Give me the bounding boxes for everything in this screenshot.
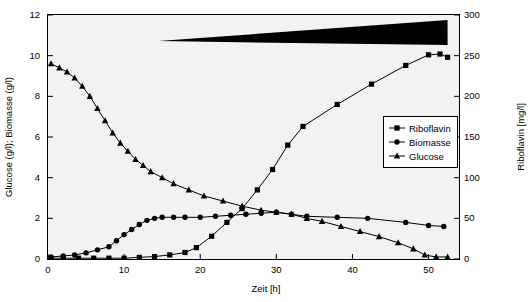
data-point — [159, 215, 164, 220]
data-point — [148, 168, 154, 174]
series-biomasse — [48, 210, 446, 259]
data-point — [94, 105, 100, 111]
data-point — [106, 256, 111, 259]
y-tick-left-4: 4 — [10, 172, 40, 183]
data-point — [198, 215, 203, 220]
legend-item-biomasse[interactable]: Biomasse — [389, 135, 451, 149]
y-tick-right-0: 0 — [464, 253, 498, 264]
data-point — [48, 60, 54, 66]
legend-marker-square-icon — [389, 122, 405, 134]
data-point — [335, 102, 340, 107]
data-point — [152, 216, 157, 221]
x-axis-title: Zeit [h] — [0, 283, 532, 294]
data-point — [140, 162, 146, 168]
data-point — [426, 52, 431, 57]
data-point — [71, 75, 77, 81]
data-point — [182, 215, 187, 220]
data-point — [270, 167, 275, 172]
data-point — [255, 187, 260, 192]
x-tick-40: 40 — [337, 264, 367, 275]
data-point — [403, 220, 408, 225]
data-point — [106, 244, 111, 249]
data-point — [209, 234, 214, 239]
data-point — [213, 214, 218, 219]
legend-marker-triangle-icon — [389, 150, 405, 162]
y-axis-right-title: Riboflavin [mg/l] — [515, 14, 531, 260]
data-point — [48, 254, 53, 259]
legend-marker-circle-icon — [389, 136, 405, 148]
data-point — [445, 55, 450, 60]
x-tick-0: 0 — [33, 264, 63, 275]
data-point — [422, 251, 428, 257]
y-tick-right-250: 250 — [464, 50, 498, 61]
data-point — [437, 51, 442, 56]
data-point — [194, 245, 199, 250]
data-point — [444, 253, 450, 259]
legend-label: Glucose — [409, 150, 444, 163]
data-point — [171, 215, 176, 220]
y-tick-right-300: 300 — [464, 9, 498, 20]
data-point — [426, 223, 431, 228]
data-point — [109, 129, 115, 135]
feed-wedge-annotation — [158, 20, 447, 45]
series-line — [51, 212, 444, 257]
data-point — [243, 212, 248, 217]
data-point — [91, 256, 96, 259]
data-point — [152, 254, 157, 259]
x-tick-20: 20 — [185, 264, 215, 275]
y-tick-left-8: 8 — [10, 90, 40, 101]
data-point — [167, 252, 172, 257]
data-point — [64, 68, 70, 74]
chart-legend: RiboflavinBiomasseGlucose — [383, 116, 458, 168]
y-tick-right-200: 200 — [464, 90, 498, 101]
data-point — [335, 215, 340, 220]
data-point — [285, 143, 290, 148]
data-point — [441, 224, 446, 229]
y-tick-left-12: 12 — [10, 9, 40, 20]
chart-figure: Glucose (g/l); Biomasse (g/l) Riboflavin… — [0, 0, 532, 302]
data-point — [137, 255, 142, 259]
legend-label: Riboflavin — [409, 122, 451, 135]
data-point — [182, 250, 187, 255]
y-tick-left-0: 0 — [10, 253, 40, 264]
y-tick-right-100: 100 — [464, 172, 498, 183]
data-point — [144, 218, 149, 223]
y-tick-left-6: 6 — [10, 131, 40, 142]
x-tick-50: 50 — [414, 264, 444, 275]
data-point — [137, 222, 142, 227]
data-point — [159, 174, 165, 180]
legend-item-riboflavin[interactable]: Riboflavin — [389, 121, 451, 135]
data-point — [170, 180, 176, 186]
y-tick-right-150: 150 — [464, 131, 498, 142]
data-point — [228, 213, 233, 218]
y-tick-left-2: 2 — [10, 212, 40, 223]
legend-label: Biomasse — [409, 136, 451, 149]
data-point — [83, 250, 88, 255]
data-point — [300, 124, 305, 129]
data-point — [129, 227, 134, 232]
data-point — [403, 63, 408, 68]
x-tick-10: 10 — [109, 264, 139, 275]
legend-item-glucose[interactable]: Glucose — [389, 149, 451, 163]
data-point — [121, 232, 126, 237]
y-tick-right-50: 50 — [464, 212, 498, 223]
data-point — [102, 117, 108, 123]
data-point — [365, 216, 370, 221]
data-point — [224, 220, 229, 225]
data-point — [114, 238, 119, 243]
data-point — [95, 247, 100, 252]
y-tick-left-10: 10 — [10, 50, 40, 61]
x-tick-30: 30 — [261, 264, 291, 275]
data-point — [56, 64, 62, 70]
data-point — [72, 252, 77, 257]
data-point — [369, 82, 374, 87]
data-point — [61, 253, 66, 258]
